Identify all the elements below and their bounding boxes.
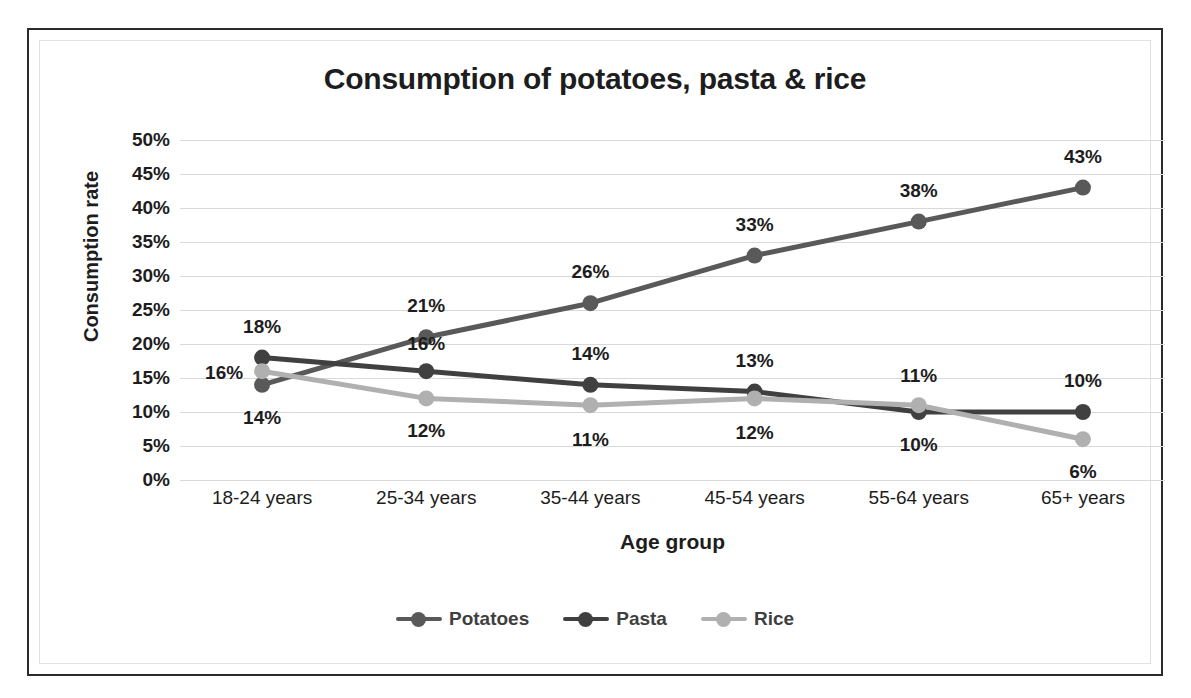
y-axis-tick: 35% [110, 231, 170, 253]
plot-area: 14%21%26%33%38%43%18%16%14%13%10%10%16%1… [180, 140, 1165, 480]
data-label-potatoes: 26% [545, 261, 635, 283]
data-point-pasta [418, 363, 434, 379]
data-label-pasta: 18% [217, 316, 307, 338]
y-axis-tick-labels: 50%45%40%35%30%25%20%15%10%5%0% [106, 140, 170, 480]
data-label-potatoes: 21% [381, 295, 471, 317]
x-axis-tick: 65+ years [993, 487, 1173, 509]
series-lines [180, 140, 1165, 480]
data-point-potatoes [747, 248, 763, 264]
data-label-rice: 6% [1038, 461, 1128, 483]
data-label-rice: 11% [545, 429, 635, 451]
x-axis-title: Age group [180, 530, 1165, 554]
x-axis-tick-labels: 18-24 years25-34 years35-44 years45-54 y… [180, 487, 1165, 517]
data-point-rice [911, 397, 927, 413]
data-point-potatoes [1075, 180, 1091, 196]
legend-swatch-icon [396, 611, 442, 627]
legend-label: Pasta [616, 608, 667, 630]
y-axis-title: Consumption rate [80, 142, 103, 372]
data-point-pasta [1075, 404, 1091, 420]
y-axis-tick: 15% [110, 367, 170, 389]
x-axis-tick: 35-44 years [500, 487, 680, 509]
data-label-rice: 12% [710, 422, 800, 444]
y-axis-tick: 40% [110, 197, 170, 219]
x-axis-tick: 18-24 years [172, 487, 352, 509]
x-axis-tick: 25-34 years [336, 487, 516, 509]
legend-swatch-icon [701, 611, 747, 627]
data-point-rice [1075, 431, 1091, 447]
legend-swatch-icon [563, 611, 609, 627]
data-point-potatoes [582, 295, 598, 311]
y-axis-tick: 10% [110, 401, 170, 423]
data-label-potatoes: 38% [874, 180, 964, 202]
data-label-pasta: 10% [1038, 370, 1128, 392]
y-axis-tick: 30% [110, 265, 170, 287]
data-label-pasta: 10% [874, 434, 964, 456]
legend-label: Potatoes [449, 608, 529, 630]
y-axis-tick: 20% [110, 333, 170, 355]
data-label-rice: 16% [179, 362, 269, 384]
data-label-potatoes: 33% [710, 214, 800, 236]
data-point-potatoes [911, 214, 927, 230]
series-line-potatoes [262, 188, 1083, 385]
legend-item-potatoes[interactable]: Potatoes [396, 608, 529, 630]
chart-title: Consumption of potatoes, pasta & rice [29, 62, 1161, 96]
data-label-pasta: 16% [381, 333, 471, 355]
y-axis-tick: 5% [110, 435, 170, 457]
data-label-rice: 11% [874, 365, 964, 387]
chart-frame: Consumption of potatoes, pasta & rice Co… [27, 28, 1163, 676]
y-axis-tick: 45% [110, 163, 170, 185]
legend-item-rice[interactable]: Rice [701, 608, 794, 630]
data-point-rice [582, 397, 598, 413]
x-axis-tick: 45-54 years [665, 487, 845, 509]
y-axis-tick: 25% [110, 299, 170, 321]
legend-label: Rice [754, 608, 794, 630]
data-label-potatoes: 43% [1038, 146, 1128, 168]
chart-legend: PotatoesPastaRice [29, 608, 1161, 630]
data-label-potatoes: 14% [217, 407, 307, 429]
legend-item-pasta[interactable]: Pasta [563, 608, 667, 630]
data-label-pasta: 14% [545, 343, 635, 365]
data-point-pasta [582, 377, 598, 393]
data-label-pasta: 13% [710, 350, 800, 372]
data-label-rice: 12% [381, 420, 471, 442]
y-axis-tick: 50% [110, 129, 170, 151]
data-point-rice [418, 390, 434, 406]
gridline [180, 480, 1165, 481]
x-axis-tick: 55-64 years [829, 487, 1009, 509]
y-axis-tick: 0% [110, 469, 170, 491]
data-point-rice [747, 390, 763, 406]
